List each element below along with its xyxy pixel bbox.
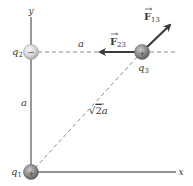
force-arrow-f13 [146, 25, 170, 48]
charge-q3: + [135, 45, 150, 60]
charge-q2: − [24, 45, 39, 60]
label-q1: q1 [11, 166, 22, 179]
distance-label-vertical: a [21, 97, 27, 108]
charge-q2-sign: − [27, 47, 35, 57]
charge-q1-sign: + [28, 169, 35, 178]
svg-text:√2a: √2a [89, 105, 108, 116]
distance-label-diagonal: √2a [89, 104, 108, 116]
label-q3: q3 [138, 62, 149, 75]
distance-label-horizontal: a [78, 38, 84, 49]
charge-q3-sign: + [139, 49, 146, 58]
charge-q1: + [24, 165, 39, 180]
label-f23: F23 [110, 33, 126, 49]
label-f13: F13 [144, 8, 160, 24]
x-axis-label: x [178, 167, 183, 177]
y-axis-label: y [27, 6, 34, 16]
svg-text:q3: q3 [138, 62, 149, 75]
svg-text:F13: F13 [144, 11, 160, 24]
svg-text:q1: q1 [11, 166, 22, 179]
svg-text:F23: F23 [110, 36, 126, 49]
svg-text:q2: q2 [12, 46, 23, 59]
coulomb-diagram: − + + y x q2 q3 q1 a a √2a F23 F13 [0, 0, 193, 186]
label-q2: q2 [12, 46, 23, 59]
dashed-diagonal-q1-q3 [35, 56, 138, 168]
